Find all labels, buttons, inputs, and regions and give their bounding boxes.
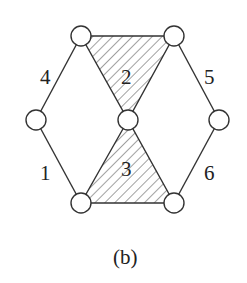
node-right <box>209 110 229 130</box>
node-left <box>26 110 46 130</box>
hexagon-diagram: 4 2 5 1 3 6 (b) <box>0 0 247 283</box>
label-4: 4 <box>40 65 51 89</box>
label-6: 6 <box>204 161 215 185</box>
node-bottom-right <box>164 193 184 213</box>
node-center <box>118 110 138 130</box>
label-3: 3 <box>121 157 132 181</box>
node-bottom-left <box>71 193 91 213</box>
label-2: 2 <box>121 65 132 89</box>
label-5: 5 <box>204 65 215 89</box>
figure-caption: (b) <box>113 245 138 269</box>
node-top-left <box>71 26 91 46</box>
label-1: 1 <box>40 161 51 185</box>
node-top-right <box>164 26 184 46</box>
